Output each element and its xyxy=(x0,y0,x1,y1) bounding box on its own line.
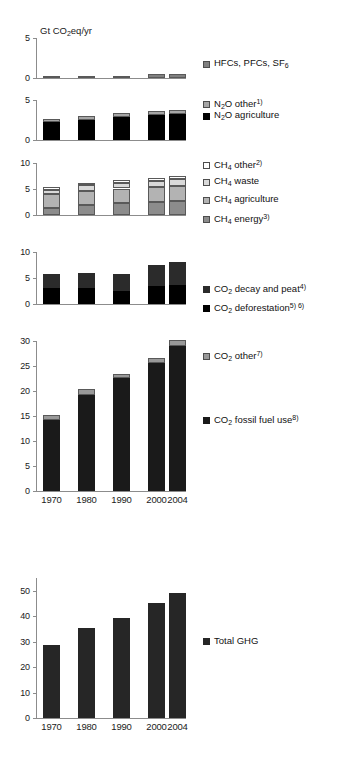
legend-label: CO2 other7) xyxy=(214,349,263,364)
bar-segment-hfc-1980-0 xyxy=(78,76,95,78)
bar-segment-n2o-1990-1 xyxy=(113,113,130,117)
legend-label: HFCs, PFCs, SF6 xyxy=(214,58,289,71)
y-tick-label: 50 xyxy=(8,587,30,596)
bar-segment-n2o-1970-0 xyxy=(43,122,60,140)
bar-segment-co2_fossil-1980-1 xyxy=(78,389,95,395)
bar-segment-n2o-2000-0 xyxy=(148,115,165,140)
x-tick-label-2004: 2004 xyxy=(158,495,198,505)
y-tick xyxy=(33,667,36,668)
y-axis xyxy=(36,163,37,215)
bar-total-1970 xyxy=(43,578,60,718)
bar-segment-ch4-2004-3 xyxy=(169,176,186,179)
y-tick-label: 5 xyxy=(8,96,30,105)
bar-segment-total-1990-0 xyxy=(113,618,130,718)
legend-item-co2_land-0: CO2 decay and peat4) xyxy=(203,282,306,297)
y-tick-label: 20 xyxy=(8,387,30,396)
bar-segment-hfc-1970-0 xyxy=(43,76,60,78)
bar-segment-n2o-1970-1 xyxy=(43,119,60,122)
bar-segment-n2o-1980-0 xyxy=(78,120,95,140)
bar-n2o-1970 xyxy=(43,100,60,140)
x-axis xyxy=(36,718,186,719)
y-tick-label: 0 xyxy=(8,211,30,220)
y-axis xyxy=(36,100,37,140)
bar-hfc-2004 xyxy=(169,38,186,78)
bar-segment-ch4-2004-0 xyxy=(169,201,186,215)
bar-ch4-1970 xyxy=(43,163,60,215)
y-tick xyxy=(33,78,36,79)
bar-co2_fossil-1990 xyxy=(113,341,130,491)
bar-segment-hfc-1990-0 xyxy=(113,76,130,78)
legend-swatch-icon xyxy=(203,216,210,223)
x-tick-label-1980: 1980 xyxy=(67,495,107,505)
y-tick-label: 0 xyxy=(8,487,30,496)
bar-segment-co2_land-2004-1 xyxy=(169,262,186,285)
bar-co2_fossil-2004 xyxy=(169,341,186,491)
y-tick xyxy=(33,693,36,694)
bar-segment-total-1970-0 xyxy=(43,645,60,718)
y-tick xyxy=(33,718,36,719)
bar-segment-n2o-2004-1 xyxy=(169,110,186,114)
x-axis xyxy=(36,491,186,492)
bar-co2_fossil-2000 xyxy=(148,341,165,491)
legend-label: Total GHG xyxy=(214,636,258,646)
bar-segment-co2_land-1970-0 xyxy=(43,288,60,304)
bar-segment-n2o-2000-1 xyxy=(148,111,165,115)
legend-swatch-icon xyxy=(203,417,210,424)
y-tick xyxy=(33,215,36,216)
bar-segment-co2_land-1990-1 xyxy=(113,274,130,290)
x-tick-label-1970: 1970 xyxy=(32,495,72,505)
bar-ch4-1980 xyxy=(78,163,95,215)
bar-hfc-1970 xyxy=(43,38,60,78)
bar-segment-co2_fossil-1990-1 xyxy=(113,374,130,378)
bar-segment-ch4-1990-1 xyxy=(113,189,130,204)
y-tick xyxy=(33,441,36,442)
legend-label: N2O agriculture xyxy=(214,110,279,123)
y-tick-label: 30 xyxy=(8,337,30,346)
bar-segment-co2_fossil-1970-0 xyxy=(43,420,60,491)
x-tick-label-1990: 1990 xyxy=(102,722,142,732)
legend-swatch-icon xyxy=(203,197,210,204)
panel-total: 0102030405019701980199020002004 xyxy=(0,578,339,744)
y-axis xyxy=(36,578,37,718)
y-tick xyxy=(33,616,36,617)
legend-label: CO2 deforestation5) 6) xyxy=(214,301,304,316)
legend-label: CO2 fossil fuel use8) xyxy=(214,413,299,428)
bar-segment-total-2000-0 xyxy=(148,603,165,718)
bar-segment-ch4-1980-1 xyxy=(78,191,95,205)
legend-item-ch4-2: CH4 agriculture xyxy=(203,194,279,207)
bar-ch4-2004 xyxy=(169,163,186,215)
x-axis xyxy=(36,304,186,305)
bar-segment-co2_land-2000-0 xyxy=(148,286,165,304)
y-tick-label: 10 xyxy=(8,689,30,698)
bar-co2_land-2004 xyxy=(169,252,186,304)
bar-segment-ch4-1970-2 xyxy=(43,190,60,195)
bar-segment-co2_fossil-1970-1 xyxy=(43,415,60,420)
y-tick xyxy=(33,304,36,305)
bar-segment-co2_fossil-2000-0 xyxy=(148,363,165,491)
bar-segment-co2_land-1990-0 xyxy=(113,291,130,304)
bar-segment-total-2004-0 xyxy=(169,593,186,718)
bar-n2o-2004 xyxy=(169,100,186,140)
legend-item-hfc-0: HFCs, PFCs, SF6 xyxy=(203,58,289,71)
legend-item-co2_land-1: CO2 deforestation5) 6) xyxy=(203,301,304,316)
x-axis xyxy=(36,140,186,141)
legend-swatch-icon xyxy=(203,162,210,169)
bar-segment-co2_land-2000-1 xyxy=(148,265,165,287)
bar-segment-ch4-1970-1 xyxy=(43,194,60,207)
y-axis xyxy=(36,38,37,78)
bar-segment-total-1980-0 xyxy=(78,628,95,718)
bar-n2o-1980 xyxy=(78,100,95,140)
panel-ch4: 0510 xyxy=(0,163,339,241)
bar-segment-ch4-2004-2 xyxy=(169,179,186,186)
bar-hfc-1980 xyxy=(78,38,95,78)
y-tick xyxy=(33,466,36,467)
bar-total-1990 xyxy=(113,578,130,718)
y-tick-label: 25 xyxy=(8,362,30,371)
legend-item-ch4-0: CH4 other2) xyxy=(203,158,262,173)
bar-segment-co2_land-2004-0 xyxy=(169,285,186,304)
bar-segment-ch4-1990-2 xyxy=(113,183,130,189)
legend-swatch-icon xyxy=(203,61,210,68)
x-axis xyxy=(36,215,186,216)
bar-segment-co2_fossil-1990-0 xyxy=(113,378,130,492)
x-axis xyxy=(36,78,186,79)
